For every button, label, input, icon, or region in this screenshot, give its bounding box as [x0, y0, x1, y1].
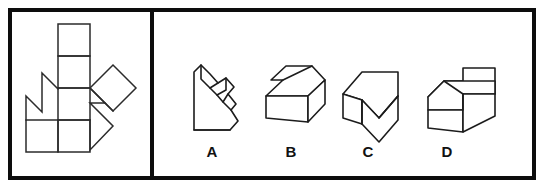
option-d-front-face: [428, 110, 463, 132]
option-b-label: B: [286, 143, 297, 160]
option-a-label: A: [207, 143, 218, 160]
option-d-label: D: [442, 143, 453, 160]
option-b-front-face: [266, 96, 308, 122]
option-c-left-wall: [343, 94, 362, 124]
question-figure: A B: [0, 0, 542, 192]
option-c-label: C: [363, 143, 374, 160]
